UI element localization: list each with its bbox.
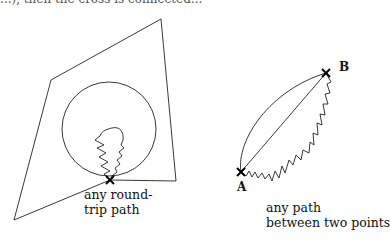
straight-path [241, 73, 326, 172]
right-caption-line1: any path [266, 200, 390, 215]
left-caption-line1: any round- [84, 187, 152, 202]
left-caption: any round- trip path [84, 187, 152, 217]
cross-marker-b [322, 69, 330, 77]
point-a-label: A [237, 180, 246, 194]
two-point-figure [241, 73, 331, 181]
right-caption-line2: between two points [266, 215, 390, 230]
zigzag-loop [95, 128, 124, 180]
zigzag-path [241, 73, 331, 181]
point-b-label: B [339, 60, 349, 74]
left-caption-line2: trip path [84, 202, 152, 217]
right-caption: any path between two points [266, 200, 390, 230]
